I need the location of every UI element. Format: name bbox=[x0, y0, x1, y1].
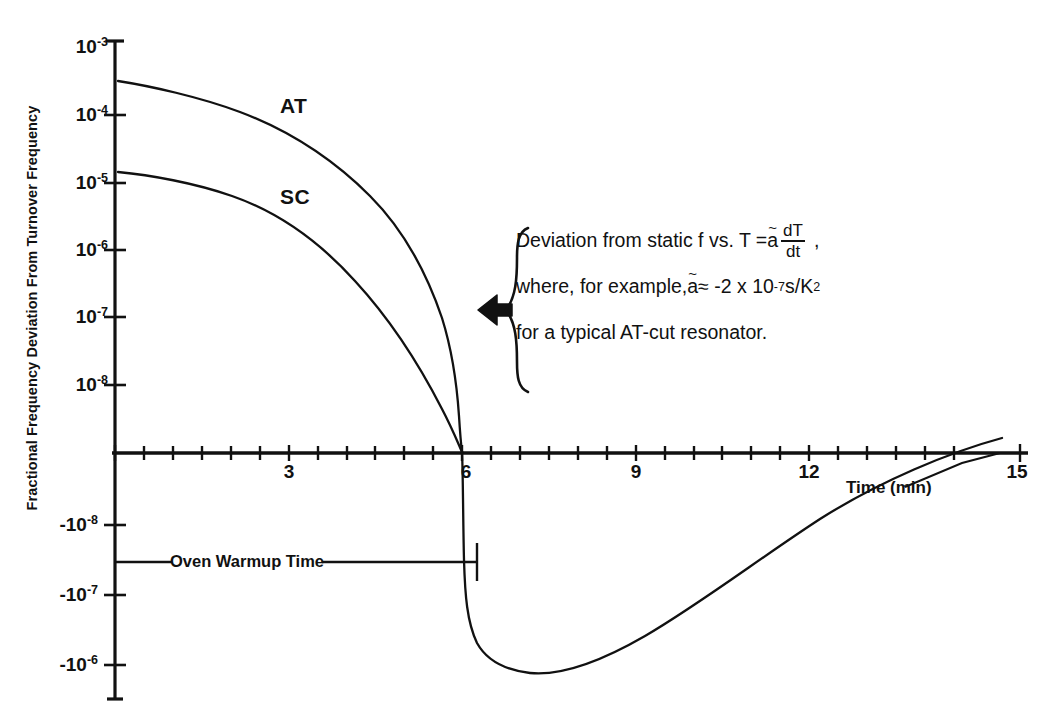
a-tilde-2: ~ a bbox=[687, 277, 698, 297]
annotation-line-2-unit-exponent: 2 bbox=[813, 281, 820, 294]
annotation-line-1: Deviation from static f vs. T = ~ a dT d… bbox=[516, 218, 1036, 264]
annotation-line-2-unit: s/K bbox=[785, 277, 813, 297]
annotation-line-3: for a typical AT-cut resonator. bbox=[516, 310, 1036, 356]
annotation-line-2-pre: where, for example, bbox=[516, 277, 687, 297]
a-tilde-1: ~ a bbox=[767, 231, 778, 251]
fraction-denominator: dt bbox=[784, 243, 802, 260]
annotation-line-1-post: , bbox=[814, 231, 819, 251]
deviation-annotation: Deviation from static f vs. T = ~ a dT d… bbox=[516, 218, 1036, 356]
annotation-line-2-exponent: -7 bbox=[774, 281, 785, 294]
annotation-line-1-pre: Deviation from static f vs. T = bbox=[516, 231, 767, 251]
series-sc-curve bbox=[118, 172, 462, 452]
series-at-curve bbox=[118, 81, 462, 452]
dT-dt-fraction: dT dt bbox=[781, 222, 805, 260]
chart-canvas: Fractional Frequency Deviation From Turn… bbox=[0, 0, 1046, 720]
series-at-negative-branch bbox=[462, 438, 1002, 673]
chart-vector-layer bbox=[0, 0, 1046, 720]
oven-warmup-span-line bbox=[115, 543, 477, 581]
annotation-line-2-mid: ≈ -2 x 10 bbox=[698, 277, 774, 297]
annotation-line-2: where, for example, ~ a ≈ -2 x 10 -7 s/K… bbox=[516, 264, 1036, 310]
x-axis-title-leader bbox=[905, 453, 1000, 487]
annotation-line-3-text: for a typical AT-cut resonator. bbox=[516, 323, 767, 343]
fraction-numerator: dT bbox=[781, 222, 805, 239]
